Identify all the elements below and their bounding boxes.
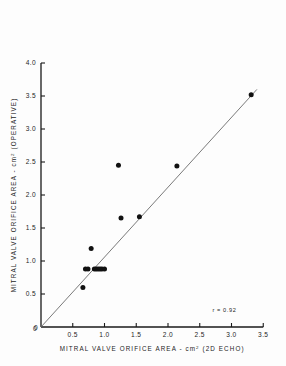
x-tick-label: 1.5	[131, 331, 141, 338]
y-axis-label: MITRAL VALVE ORIFICE AREA - cm2 (OPERATI…	[10, 98, 19, 293]
data-point	[116, 163, 121, 168]
x-tick-label: 3.5	[258, 331, 268, 338]
y-tick-label: 3.0	[26, 125, 36, 132]
data-point	[85, 266, 90, 271]
data-point	[119, 216, 124, 221]
data-point	[80, 285, 85, 290]
scatter-plot: 00.51.01.52.02.53.03.500.51.01.52.02.53.…	[0, 0, 286, 366]
data-point	[89, 246, 94, 251]
correlation-annotation: r = 0.92	[212, 307, 236, 313]
x-tick-label: 3.0	[226, 331, 236, 338]
x-tick-label: 0.5	[68, 331, 78, 338]
x-axis-label: MITRAL VALVE ORIFICE AREA - cm2 (2D ECHO…	[60, 345, 245, 354]
y-tick-label: 2.0	[26, 191, 36, 198]
y-tick-label: 0	[33, 325, 37, 332]
x-tick-label: 2.0	[163, 331, 173, 338]
data-point	[174, 163, 179, 168]
data-point	[137, 214, 142, 219]
y-tick-label: 4.0	[26, 59, 36, 66]
y-tick-label: 2.5	[26, 158, 36, 165]
x-tick-label: 1.0	[99, 331, 109, 338]
y-tick-label: 0.5	[26, 290, 36, 297]
y-tick-label: 1.0	[26, 257, 36, 264]
data-point	[102, 266, 107, 271]
figure-panel: 00.51.01.52.02.53.03.500.51.01.52.02.53.…	[0, 0, 286, 366]
x-tick-label: 2.5	[195, 331, 205, 338]
y-tick-label: 1.5	[26, 224, 36, 231]
regression-line	[41, 89, 257, 327]
data-point	[249, 92, 254, 97]
y-tick-label: 3.5	[26, 92, 36, 99]
